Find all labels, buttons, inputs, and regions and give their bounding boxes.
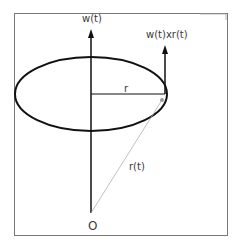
velocity-arrowhead-icon <box>162 45 168 54</box>
corner-mark <box>200 14 226 20</box>
point-marker <box>160 98 164 102</box>
label-radius: r <box>124 84 128 94</box>
axis-arrowhead-icon <box>88 29 94 38</box>
rotation-diagram <box>0 0 239 246</box>
position-vector-line <box>91 100 162 213</box>
label-cross-product: w(t)xr(t) <box>146 30 188 40</box>
label-angular-velocity: w(t) <box>82 14 102 24</box>
label-position-vector: r(t) <box>129 162 145 172</box>
label-origin: O <box>88 220 97 232</box>
